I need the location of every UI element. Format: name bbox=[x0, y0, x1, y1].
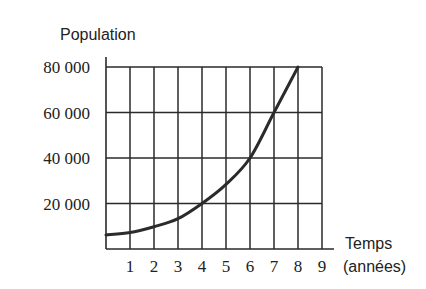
x-tick-labels: 123456789 bbox=[126, 257, 327, 276]
y-axis-title: Population bbox=[60, 26, 136, 43]
x-tick-label: 8 bbox=[294, 257, 303, 276]
x-tick-label: 4 bbox=[198, 257, 207, 276]
population-chart: Population 20 00040 00060 00080 000 1234… bbox=[0, 0, 426, 289]
horizontal-gridlines bbox=[106, 67, 322, 204]
x-tick-label: 5 bbox=[222, 257, 231, 276]
x-tick-label: 2 bbox=[150, 257, 159, 276]
y-tick-label: 60 000 bbox=[43, 104, 90, 123]
x-tick-label: 3 bbox=[174, 257, 183, 276]
x-axis-title-line2: (années) bbox=[343, 258, 406, 275]
x-tick-label: 7 bbox=[270, 257, 279, 276]
x-tick-label: 9 bbox=[318, 257, 327, 276]
x-axis-title-line1: Temps bbox=[345, 235, 392, 252]
y-tick-label: 20 000 bbox=[43, 195, 90, 214]
x-tick-label: 1 bbox=[126, 257, 135, 276]
y-tick-labels: 20 00040 00060 00080 000 bbox=[43, 58, 90, 214]
x-tick-label: 6 bbox=[246, 257, 255, 276]
y-tick-label: 40 000 bbox=[43, 149, 90, 168]
y-tick-label: 80 000 bbox=[43, 58, 90, 77]
